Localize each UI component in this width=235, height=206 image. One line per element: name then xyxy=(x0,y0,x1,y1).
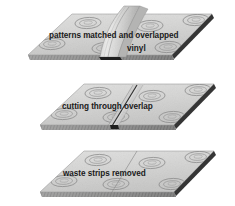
panel-finished-caption: waste strips removed xyxy=(62,169,146,178)
panel-finished-edge-texture xyxy=(40,192,176,197)
panel-cutting-edge-texture xyxy=(40,125,176,130)
diagram-canvas: patterns matched and overlapped vinyl cu… xyxy=(0,0,235,206)
panel-overlap-secondary-caption: vinyl xyxy=(127,44,146,53)
panel-overlap-caption: patterns matched and overlapped xyxy=(49,31,179,40)
panel-cutting-caption: cutting through overlap xyxy=(62,102,153,111)
vinyl-seam-diagram: patterns matched and overlapped vinyl cu… xyxy=(0,0,235,206)
cut-line-base-shadow xyxy=(110,125,119,129)
overlap-seam-shadow xyxy=(99,57,122,60)
